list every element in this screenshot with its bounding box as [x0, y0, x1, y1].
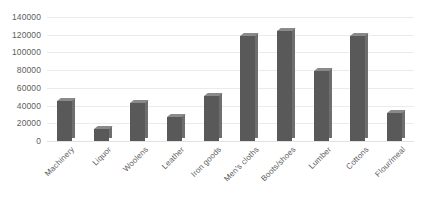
bar-face [204, 96, 219, 141]
bar-side-facet [219, 93, 222, 138]
x-axis-tick-label: Machinery [43, 145, 76, 178]
bar-side-facet [329, 68, 332, 138]
bar-side-facet [292, 28, 295, 138]
bar [57, 98, 72, 141]
bar-face [57, 101, 72, 141]
bar-face [314, 71, 329, 141]
bar-side-facet [72, 98, 75, 138]
bar [94, 126, 109, 141]
bar [387, 110, 402, 141]
y-axis-tick-label: 60000 [17, 83, 41, 92]
bar [204, 93, 219, 141]
bar-face [167, 117, 182, 141]
y-axis-tick-label: 40000 [17, 101, 41, 110]
bar-face [277, 31, 292, 141]
y-axis-tick-label: 20000 [17, 119, 41, 128]
bar-face [350, 36, 365, 141]
bar-chart: 140000120000100000800006000040000200000 … [0, 0, 425, 210]
bar-top-facet [204, 93, 223, 96]
bar-face [130, 103, 145, 141]
x-axis-tick-label: Woolens [121, 145, 150, 174]
bar-face [94, 129, 109, 141]
bar [277, 28, 292, 141]
bar-face [387, 113, 402, 141]
y-axis-tick-label: 0 [36, 137, 41, 146]
bar [314, 68, 329, 141]
x-axis-tick-label: Flour/meal [373, 145, 407, 179]
bar-side-facet [145, 100, 148, 138]
x-axis-tick-label: Liquor [91, 145, 114, 168]
x-axis-tick-label: Lumber [307, 145, 333, 171]
x-axis-tick-label: Leather [161, 145, 187, 171]
bar-side-facet [182, 114, 185, 138]
bar-face [240, 36, 255, 141]
bar [130, 100, 145, 141]
bar-side-facet [255, 33, 258, 138]
bar-side-facet [402, 110, 405, 138]
plot-area [47, 17, 414, 141]
y-axis: 140000120000100000800006000040000200000 [0, 0, 44, 210]
y-axis-tick-label: 80000 [17, 66, 41, 75]
x-axis-tick-label: Men's cloths [222, 145, 260, 183]
bar [240, 33, 255, 141]
bar [350, 33, 365, 141]
bar [167, 114, 182, 141]
y-axis-tick-label: 140000 [12, 13, 41, 22]
y-axis-tick-label: 120000 [12, 30, 41, 39]
bars-layer [47, 17, 414, 141]
y-axis-tick-label: 100000 [12, 48, 41, 57]
bar-side-facet [365, 33, 368, 138]
x-axis-tick-label: Cottons [344, 145, 370, 171]
x-axis-tick-label: Iron goods [190, 145, 224, 179]
bar-top-facet [94, 126, 113, 129]
x-axis-tick-label: Boots/shoes [259, 145, 297, 183]
axis-baseline [47, 141, 414, 142]
